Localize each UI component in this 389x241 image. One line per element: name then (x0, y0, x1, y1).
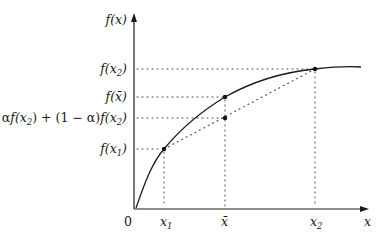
point-xbar-curve (223, 95, 227, 99)
label-fx2: f(x2) (99, 61, 127, 78)
concave-function-diagram: f(x) f(x2) f(x̄) αf(x2) + (1 − α)f(x2) f… (0, 0, 389, 241)
y-axis-label: f(x) (105, 12, 128, 27)
label-fx1: f(x1) (99, 141, 127, 158)
label-fxbar: f(x̄) (105, 89, 128, 104)
chord-line (164, 69, 315, 149)
concave-curve (136, 67, 361, 208)
label-convex-combination: αf(x2) + (1 − α)f(x2) (2, 110, 127, 127)
x-axis-label: x (364, 214, 371, 229)
point-xbar-chord (223, 116, 227, 120)
y-axis-arrow-icon (131, 13, 137, 22)
x-axis-arrow-icon (360, 206, 369, 212)
origin-label: 0 (124, 214, 132, 229)
label-x2: x2 (310, 214, 322, 231)
point-x1 (162, 147, 166, 151)
label-xbar: x̄ (221, 214, 228, 229)
point-x2 (313, 67, 317, 71)
label-x1: x1 (160, 214, 172, 231)
